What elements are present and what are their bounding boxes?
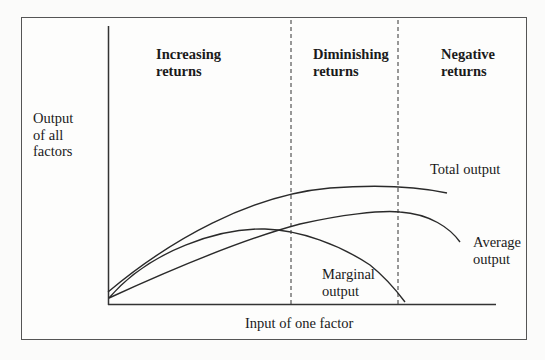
x-axis-label: Input of one factor bbox=[245, 315, 353, 332]
marginal-output-label-line-2: output bbox=[322, 283, 375, 300]
region-label-diminishing-line-1: Diminishing bbox=[313, 46, 389, 63]
region-label-increasing: Increasing returns bbox=[156, 46, 221, 79]
region-label-diminishing: Diminishing returns bbox=[313, 46, 389, 79]
y-axis-label-line-2: of all bbox=[33, 127, 73, 144]
region-label-negative-line-2: returns bbox=[441, 63, 495, 80]
region-label-increasing-line-2: returns bbox=[156, 63, 221, 80]
region-label-negative-line-1: Negative bbox=[441, 46, 495, 63]
region-label-diminishing-line-2: returns bbox=[313, 63, 389, 80]
average-output-curve bbox=[109, 212, 460, 298]
y-axis-label-line-3: factors bbox=[33, 143, 73, 160]
average-output-label-line-2: output bbox=[473, 251, 521, 268]
average-output-label: Average output bbox=[473, 234, 521, 267]
average-output-label-line-1: Average bbox=[473, 234, 521, 251]
y-axis-label: Output of all factors bbox=[33, 110, 73, 160]
y-axis-label-line-1: Output bbox=[33, 110, 73, 127]
marginal-output-label: Marginal output bbox=[322, 266, 375, 299]
region-label-increasing-line-1: Increasing bbox=[156, 46, 221, 63]
region-label-negative: Negative returns bbox=[441, 46, 495, 79]
marginal-output-label-line-1: Marginal bbox=[322, 266, 375, 283]
total-output-label: Total output bbox=[430, 161, 500, 178]
